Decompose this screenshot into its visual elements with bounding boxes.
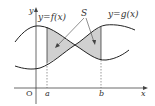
x-axis-label: x bbox=[141, 89, 146, 98]
a-label: a bbox=[45, 89, 50, 98]
curve-f bbox=[15, 26, 129, 60]
shaded-region-right bbox=[75, 27, 101, 60]
region-s-label: S bbox=[81, 8, 87, 18]
origin-label: O bbox=[26, 89, 33, 98]
curve-g bbox=[15, 25, 135, 69]
curve-f-label: y=f(x) bbox=[37, 12, 67, 22]
curve-g-label: y=g(x) bbox=[107, 9, 139, 19]
b-label: b bbox=[99, 89, 104, 98]
area-between-curves-diagram: y y=f(x) S y=g(x) O a b x bbox=[0, 0, 155, 106]
shaded-region-left bbox=[47, 27, 75, 63]
y-axis-label: y bbox=[28, 6, 34, 15]
